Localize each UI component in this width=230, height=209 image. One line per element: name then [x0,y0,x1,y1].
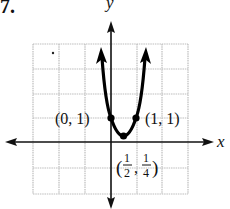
point-vertex [120,132,127,139]
vertex-y-numerator: 1 [143,151,149,165]
parabola-curve [96,47,151,136]
point-0-1 [107,114,114,121]
vertex-x-denominator: 2 [124,166,130,180]
graph-canvas: 7. y x (0, 1) (1, 1) ( 1 2 , 1 4 ) [0,0,230,209]
vertex-open-paren: ( [116,157,122,179]
vertex-separator: , [134,159,138,176]
stray-dot [52,52,54,54]
point-label-0-1: (0, 1) [55,110,90,128]
problem-number: 7. [0,0,15,17]
point-label-1-1: (1, 1) [145,110,180,128]
vertex-x-numerator: 1 [124,151,130,165]
vertex-y-denominator: 4 [143,166,149,180]
vertex-close-paren: ) [152,157,158,179]
point-1-1 [132,114,139,121]
x-axis [5,138,214,146]
y-axis-label: y [104,0,114,12]
x-axis-label: x [216,132,225,151]
